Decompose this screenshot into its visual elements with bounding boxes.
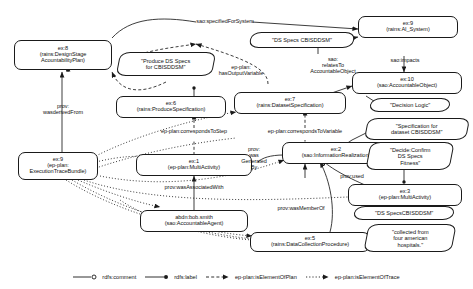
literal-decision-logic-text: "Decision Logic" bbox=[390, 102, 430, 108]
edge-label-was-generated-by: prov:wasGeneratedBy bbox=[232, 146, 276, 170]
diagram-canvas: ex:8 (rains:DesignStage AcountabilityPla… bbox=[0, 0, 473, 289]
literal-ds-specs-cbisddsm[interactable]: "DS Specs CBISDDSM" bbox=[248, 32, 355, 48]
legend-label-is-element-of-trace: ep-plan:isElementOfTrace bbox=[335, 274, 400, 280]
node-ex8-line3: AcountabilityPlan) bbox=[41, 58, 85, 64]
legend-item-rdfs-label: rdfs:label bbox=[145, 273, 197, 281]
edge-label-was-member-of: prov:wasMemberOf bbox=[266, 205, 336, 211]
node-ex9-execution-trace-bundle[interactable]: ex:9 (ep-plan: ExecutionTraceBundle) bbox=[18, 152, 98, 180]
literal-decide-confirm-text: "Decide:ConfirmDS SpecsFitness" bbox=[390, 147, 431, 166]
literal-decide-confirm[interactable]: "Decide:ConfirmDS SpecsFitness" bbox=[365, 142, 454, 170]
node-ex2-line2: (sao:InformationRealization) bbox=[302, 153, 371, 159]
legend-item-is-element-of-trace: ep-plan:isElementOfTrace bbox=[306, 273, 400, 281]
legend-label-is-element-of-plan: ep-plan:isElementOfPlan bbox=[235, 274, 297, 280]
literal-collected-from-text: "collected fromfour americanhospitals." bbox=[392, 229, 429, 248]
literal-produce-ds-specs[interactable]: "Produce DS Specsfor CBISDDSM" bbox=[116, 52, 217, 76]
edge-label-specified-for-system: sao:specifiedForSystem bbox=[196, 18, 254, 24]
node-ex6[interactable]: ex:6 (rains:ProduceSpecification) bbox=[116, 96, 226, 118]
dashed-arrow-icon bbox=[206, 273, 232, 281]
node-ex6-line2: (rains:ProduceSpecification) bbox=[137, 107, 206, 113]
legend: rdfs:comment rdfs:label ep-plan:isElemen… bbox=[0, 264, 473, 289]
literal-ds-specs-cbisddsm-2-text: "DS SpecsCBISDDSM" bbox=[375, 210, 433, 216]
node-ex5-line2: (rains:DataCollectionProcedure) bbox=[271, 242, 349, 248]
edge-label-was-associated-with: prov:wasAssociatedWith bbox=[130, 184, 258, 190]
legend-label-rdfs-comment: rdfs:comment bbox=[102, 274, 136, 280]
edge-label-corresponds-to-step: ep-plan:correspondsToStep bbox=[134, 128, 254, 134]
legend-item-is-element-of-plan: ep-plan:isElementOfPlan bbox=[206, 273, 297, 281]
hollow-dot-arrow-icon bbox=[73, 273, 99, 281]
literal-ds-specs-cbisddsm-2[interactable]: "DS SpecsCBISDDSM" bbox=[353, 206, 456, 220]
node-bob-smith[interactable]: abdn:bob.smith (sao:AccountableAgent) bbox=[140, 210, 248, 232]
node-ex3[interactable]: ex:3 (ep-plan:MultiActivity) bbox=[348, 184, 462, 206]
literal-decision-logic[interactable]: "Decision Logic" bbox=[369, 98, 452, 112]
node-bob-line2: (sao:AccountableAgent) bbox=[165, 221, 224, 227]
node-ex9-ai-system[interactable]: ex:9 (rains:AI_System) bbox=[358, 16, 458, 38]
literal-specification-for-dataset-text: "Specification fordataset CBISDDSM" bbox=[391, 123, 442, 136]
edge-label-prov-used: prov:used bbox=[330, 173, 374, 179]
node-ex9sys-line2: (rains:AI_System) bbox=[386, 27, 430, 33]
node-ex7-line2: (rains:DatasetSpecification) bbox=[257, 103, 324, 109]
literal-produce-ds-specs-text: "Produce DS Specsfor CBISDDSM" bbox=[141, 58, 190, 71]
edge-label-relates-to-accountable-object: sao:relatesToAccountableObject bbox=[302, 56, 364, 74]
edge-label-was-derived-from: prov:wasderivedFrom bbox=[32, 103, 94, 115]
node-ex10[interactable]: ex:10 (sao:AccountableObject) bbox=[352, 72, 462, 94]
node-ex10-line2: (sao:AccountableObject) bbox=[377, 83, 437, 89]
literal-collected-from[interactable]: "collected fromfour americanhospitals." bbox=[363, 224, 456, 252]
node-ex9etb-line3: ExecutionTraceBundle) bbox=[30, 169, 87, 175]
legend-item-rdfs-comment: rdfs:comment bbox=[73, 273, 136, 281]
node-ex7[interactable]: ex:7 (rains:DatasetSpecification) bbox=[234, 92, 346, 114]
edge-label-sao-impacts: sao:impacts bbox=[382, 57, 428, 63]
filled-dot-arrow-icon bbox=[145, 273, 171, 281]
node-ex8[interactable]: ex:8 (rains:DesignStage AcountabilityPla… bbox=[14, 40, 112, 70]
edge-label-has-output-variable: ep-plan:hasOutputVariable bbox=[212, 64, 270, 76]
literal-ds-specs-cbisddsm-text: "DS Specs CBISDDSM" bbox=[272, 37, 332, 43]
edge-label-corresponds-to-variable: ep-plan:correspondsToVariable bbox=[240, 128, 370, 134]
node-ex5[interactable]: ex:5 (rains:DataCollectionProcedure) bbox=[250, 232, 370, 252]
legend-label-rdfs-label: rdfs:label bbox=[174, 274, 197, 280]
node-ex1-line2: (ep-plan:MultiActivity) bbox=[168, 165, 220, 171]
dotted-arrow-icon bbox=[306, 273, 332, 281]
node-ex3-line2: (ep-plan:MultiActivity) bbox=[379, 195, 431, 201]
literal-specification-for-dataset[interactable]: "Specification fordataset CBISDDSM" bbox=[364, 118, 470, 140]
